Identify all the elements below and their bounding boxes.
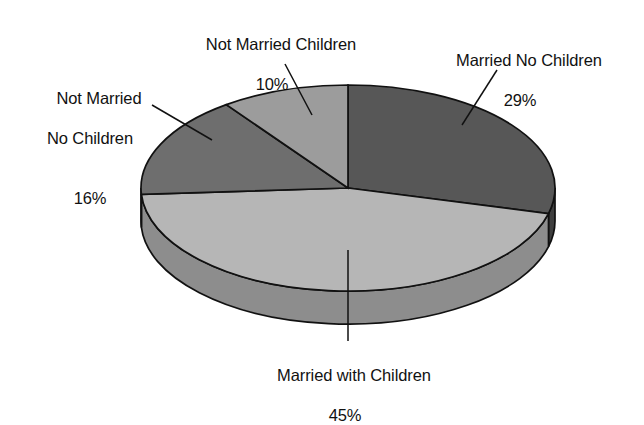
label-not-married-children: Not Married Children 10% — [166, 14, 378, 134]
label-married-no-children-percent: 29% — [412, 90, 628, 110]
label-married-with-children-percent: 45% — [222, 405, 468, 425]
label-not-married-children-text: Not Married Children — [206, 35, 356, 53]
label-not-married-no-children-text-line1: Not Married — [56, 89, 141, 107]
label-not-married-no-children-text-line2: No Children — [14, 128, 166, 148]
label-not-married-no-children: Not Married No Children 16% — [14, 68, 166, 248]
label-married-no-children: Married No Children 29% — [412, 30, 628, 150]
label-not-married-children-percent: 10% — [166, 74, 378, 94]
label-married-with-children: Married with Children 45% — [222, 345, 468, 425]
label-married-no-children-text: Married No Children — [456, 51, 602, 69]
label-married-with-children-text: Married with Children — [277, 366, 431, 384]
label-not-married-no-children-percent: 16% — [14, 188, 166, 208]
